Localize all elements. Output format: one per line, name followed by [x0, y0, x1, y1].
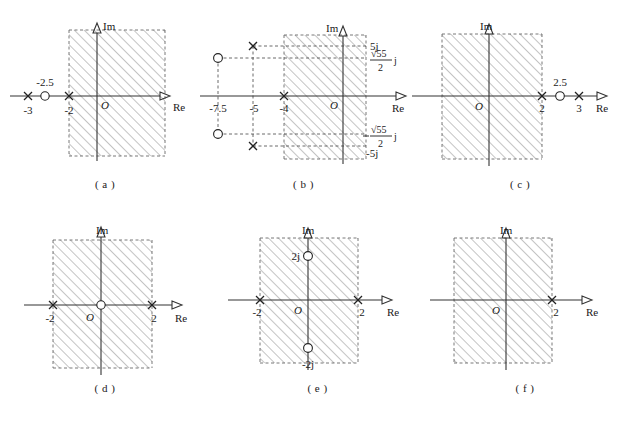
real-tick-label: -5 — [249, 102, 259, 114]
origin-label: O — [492, 304, 500, 316]
panel-a: -3 -2.5 -2 O Re Im ( a ) — [0, 6, 210, 196]
pole-label: 2 — [539, 102, 545, 114]
imag-tick-label-neg5j: -5j — [366, 147, 378, 159]
imag-axis-label: Im — [500, 224, 513, 236]
pole-label: 2 — [553, 306, 559, 318]
zero-marker — [41, 92, 49, 100]
zero-marker — [556, 92, 565, 101]
real-axis-arrow — [396, 92, 406, 100]
panel-d-plot: -2 2 O Re Im — [0, 210, 210, 382]
panel-c-plot: 2 2.5 3 O Re Im — [412, 6, 628, 178]
zero-marker — [214, 130, 223, 139]
zero-label: 2.5 — [553, 76, 567, 88]
origin-label: O — [86, 311, 94, 323]
sqrt55-suffix: j — [393, 131, 397, 142]
zero-marker — [304, 344, 313, 353]
sqrt55-denominator: 2 — [378, 138, 383, 149]
real-axis-label: Re — [175, 312, 187, 324]
origin-label: O — [330, 99, 338, 111]
panel-e: -2 2 2j -2j O Re Im ( e ) — [210, 210, 425, 400]
imag-tick-label-sqrt55-lower: √55 2 j — [363, 124, 397, 149]
roc-region — [284, 35, 366, 159]
pole-label: -3 — [23, 104, 33, 116]
zero-label: -2j — [302, 358, 314, 370]
sqrt55-suffix: j — [393, 55, 397, 66]
imag-axis-label: Im — [302, 224, 315, 236]
pole-label: 2 — [359, 306, 365, 318]
imag-axis-label: Im — [326, 22, 339, 34]
imag-axis-label: Im — [103, 20, 116, 32]
panel-d: -2 2 O Re Im ( d ) — [0, 210, 210, 400]
zero-label: -2.5 — [36, 76, 54, 88]
pole-label: 2 — [151, 312, 157, 324]
imag-axis-label: Im — [480, 20, 493, 32]
panel-b: -7.5 -5 -4 O Re Im 5j √55 2 j √55 2 j -5… — [196, 6, 411, 196]
real-axis-label: Re — [392, 102, 404, 114]
origin-label: O — [294, 304, 302, 316]
real-tick-label: -4 — [279, 102, 289, 114]
panel-caption: ( a ) — [0, 178, 210, 190]
panel-e-plot: -2 2 2j -2j O Re Im — [210, 210, 425, 382]
sqrt55-numerator: √55 — [371, 124, 387, 135]
real-axis-label: Re — [173, 101, 185, 113]
origin-label: O — [475, 100, 483, 112]
real-tick-label: -7.5 — [209, 102, 227, 114]
pole-label: -2 — [45, 312, 54, 324]
imag-tick-label-sqrt55-upper: √55 2 j — [370, 48, 397, 73]
sqrt55-numerator: √55 — [371, 48, 387, 59]
pole-label: -2 — [252, 306, 261, 318]
zero-label: 2j — [291, 250, 300, 262]
real-axis-arrow — [172, 301, 182, 309]
panel-caption: ( f ) — [422, 382, 628, 394]
pole-label: 3 — [576, 102, 582, 114]
imag-axis-label: Im — [96, 224, 109, 236]
imag-axis-arrow — [339, 26, 347, 36]
zero-marker-origin — [97, 301, 105, 309]
real-axis-label: Re — [387, 306, 399, 318]
roc-region — [69, 30, 165, 156]
pole-label: -2 — [64, 104, 73, 116]
real-axis-arrow — [382, 296, 392, 304]
zero-marker — [304, 252, 313, 261]
origin-label: O — [101, 99, 109, 111]
real-axis-label: Re — [596, 102, 608, 114]
panel-caption: ( d ) — [0, 382, 210, 394]
panel-f: 2 O Re Im ( f ) — [422, 210, 628, 400]
real-axis-arrow — [597, 92, 607, 100]
sqrt55-denominator: 2 — [378, 62, 383, 73]
panel-c: 2 2.5 3 O Re Im ( c ) — [412, 6, 628, 196]
real-axis-arrow — [582, 296, 592, 304]
panel-b-plot: -7.5 -5 -4 O Re Im 5j √55 2 j √55 2 j -5… — [196, 6, 411, 178]
panel-a-plot: -3 -2.5 -2 O Re Im — [0, 6, 210, 178]
panel-f-plot: 2 O Re Im — [422, 210, 628, 382]
panel-caption: ( b ) — [196, 178, 411, 190]
panel-caption: ( c ) — [412, 178, 628, 190]
real-axis-label: Re — [586, 306, 598, 318]
zero-marker — [214, 54, 223, 63]
panel-caption: ( e ) — [210, 382, 425, 394]
